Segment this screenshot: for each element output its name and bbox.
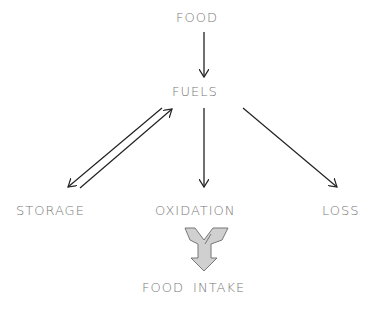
arrow-fuels-to-loss [243, 108, 337, 187]
arrow-storage-to-fuels [80, 109, 172, 188]
node-oxidation: OXIDATION [155, 203, 236, 218]
node-loss: LOSS [322, 203, 360, 218]
food-intake-arrow-icon [185, 228, 228, 271]
node-food-intake: FOOD INTAKE [142, 280, 245, 295]
node-food: FOOD [176, 10, 218, 25]
diagram-arrows [0, 0, 385, 313]
node-storage: STORAGE [16, 203, 85, 218]
node-fuels: FUELS [172, 84, 218, 99]
arrow-fuels-to-storage [68, 108, 162, 187]
